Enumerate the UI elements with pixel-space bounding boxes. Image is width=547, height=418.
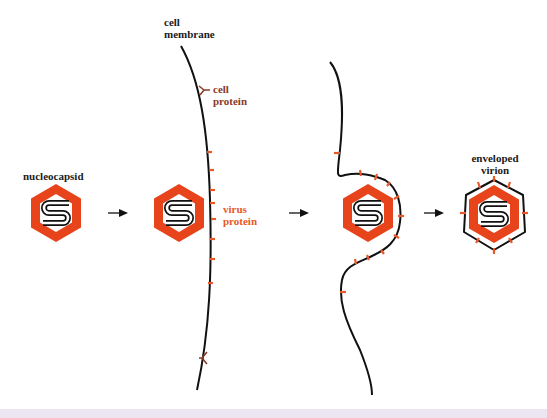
virus-protein-label: virus protein bbox=[223, 203, 257, 227]
bottom-strip bbox=[0, 409, 547, 418]
nucleocapsid-budding bbox=[343, 184, 393, 242]
cell-membrane-label-line1: cell bbox=[164, 16, 215, 28]
diagram-canvas bbox=[0, 0, 547, 418]
cell-membrane-label-line2: membrane bbox=[164, 28, 215, 40]
enveloped-virion-label-line1: enveloped bbox=[462, 152, 528, 164]
enveloped-virion-label: enveloped virion bbox=[462, 152, 528, 176]
cell-protein-label-line2: protein bbox=[213, 95, 247, 107]
cell-protein-label: cell protein bbox=[213, 83, 247, 107]
enveloped-virion-label-line2: virion bbox=[462, 164, 528, 176]
nucleocapsid-label: nucleocapsid bbox=[23, 170, 84, 182]
cell-protein-icon bbox=[199, 86, 210, 95]
arrow-1 bbox=[108, 209, 128, 217]
budding-diagram: nucleocapsid cell membrane cell protein … bbox=[0, 0, 547, 418]
virus-protein-label-line1: virus bbox=[223, 203, 257, 215]
enveloped-virion bbox=[460, 176, 528, 254]
cell-membrane-label: cell membrane bbox=[164, 16, 215, 40]
cell-protein-label-line1: cell bbox=[213, 83, 247, 95]
nucleocapsid-approaching bbox=[154, 184, 204, 242]
nucleocapsid-free bbox=[31, 184, 81, 242]
arrow-3 bbox=[424, 209, 444, 217]
virus-protein-label-line2: protein bbox=[223, 215, 257, 227]
arrow-2 bbox=[289, 209, 309, 217]
